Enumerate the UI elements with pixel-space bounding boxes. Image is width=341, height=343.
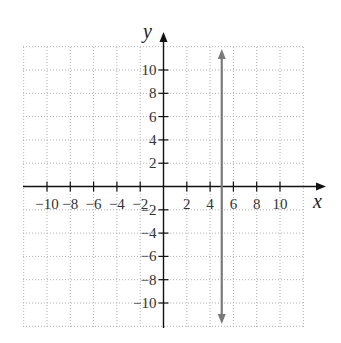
x-tick-label: 4 (206, 196, 214, 212)
x-tick-label: 2 (183, 196, 191, 212)
y-tick-label: −10 (133, 295, 156, 311)
x-tick-label: −8 (62, 196, 78, 212)
y-tick-label: −6 (141, 248, 157, 264)
y-tick-label: −4 (141, 225, 157, 241)
y-tick-label: 8 (149, 85, 157, 101)
x-tick-label: 10 (273, 196, 288, 212)
y-tick-label: 4 (149, 132, 157, 148)
x-tick-label: 6 (230, 196, 238, 212)
x-axis-title: x (312, 190, 322, 212)
x-tick-label: −6 (86, 196, 102, 212)
line-arrow-up-icon (218, 49, 226, 59)
y-axis-arrow-icon (160, 32, 168, 42)
y-tick-label: 2 (149, 155, 157, 171)
y-tick-label: 6 (149, 109, 157, 125)
y-tick-label: −2 (141, 202, 157, 218)
x-tick-label: 8 (253, 196, 261, 212)
y-tick-label: 10 (142, 62, 157, 78)
coordinate-plane: −10−8−6−4−2246810−10−8−6−4−2246810 x y (0, 0, 341, 343)
x-tick-label: −4 (109, 196, 125, 212)
line-arrow-down-icon (218, 314, 226, 324)
x-tick-label: −10 (35, 196, 58, 212)
y-tick-label: −8 (141, 272, 157, 288)
axes (23, 32, 326, 328)
y-axis-title: y (141, 20, 152, 43)
